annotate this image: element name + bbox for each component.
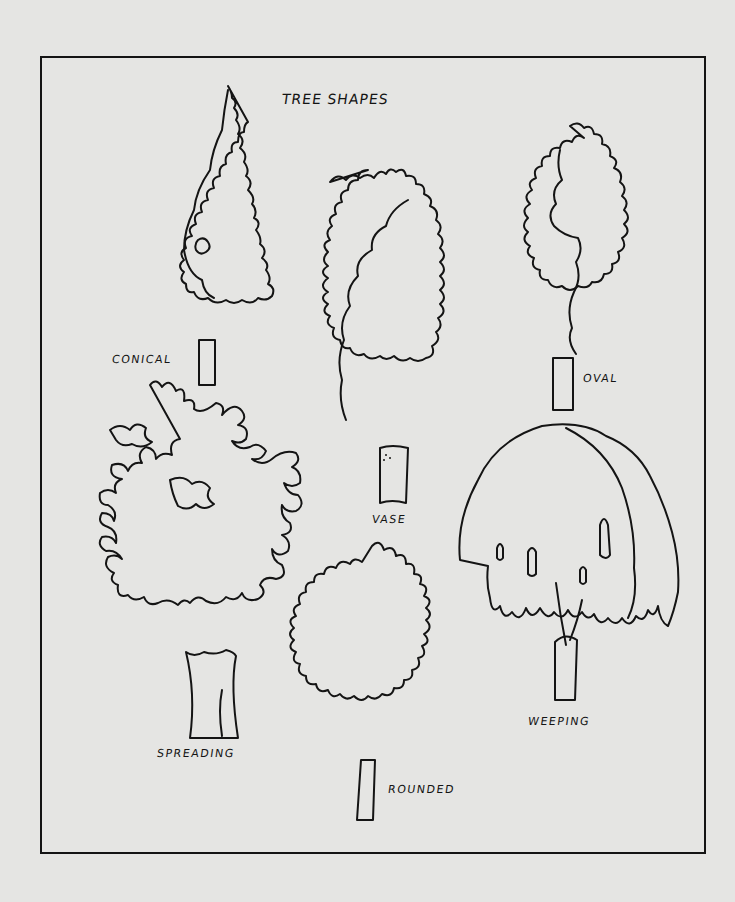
label-spreading: SPREADING [156,747,236,760]
weeping-drip-3 [497,544,503,560]
tree-drawings [0,0,735,902]
vase-canopy [323,169,444,361]
weeping-drip-1 [600,519,610,558]
label-oval: OVAL [582,372,619,385]
spreading-trunk [186,650,238,738]
label-vase: VASE [371,513,407,526]
conical-canopy [180,86,273,303]
weeping-drip-4 [580,567,586,584]
weeping-tree-drawing [459,424,678,700]
page-title: TREE SHAPES [281,91,390,107]
spreading-tree-drawing [100,381,302,738]
conical-tree-drawing [180,86,273,385]
rounded-trunk [357,760,375,820]
label-rounded: ROUNDED [387,783,456,796]
oval-tree-drawing [524,123,628,410]
rounded-canopy [290,543,430,700]
oval-trunk [553,358,573,410]
rounded-tree-drawing [290,543,430,820]
weeping-drip-2 [528,548,536,576]
weeping-canopy [459,424,678,626]
spreading-inner-lobe-2 [110,424,152,446]
label-conical: CONICAL [111,353,172,366]
vase-tree-drawing [323,169,444,503]
conical-trunk [199,340,215,385]
label-weeping: WEEPING [527,715,591,728]
vase-trunk [380,446,408,503]
conical-small-lobe [195,238,209,253]
